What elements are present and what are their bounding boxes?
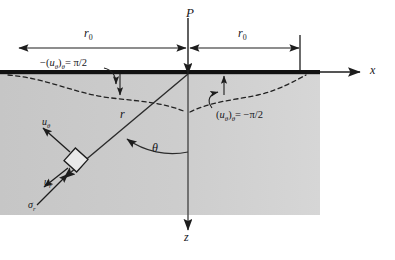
radius-label-r: r [120,108,125,120]
r0-left-label: r0 [84,27,93,42]
theta-angle-label: θ [152,142,158,154]
r0-right-label: r0 [238,27,247,42]
x-axis-label: x [370,64,375,76]
u-r-vector-label: ur [44,177,52,190]
figure-canvas: P r0 r0 x z r θ uθ ur σr −(uθ)θ= π/2 (uθ… [0,0,395,260]
u-r-subscript: r [49,182,52,189]
u-theta-vector-label: uθ [42,117,50,130]
diagram-vector-graphics [0,0,395,260]
sigma-r-subscript: r [33,205,36,212]
boundary-condition-right-label: (uθ)θ= −π/2 [216,110,263,123]
boundary-condition-left-label: −(uθ)θ= π/2 [40,58,87,71]
r0-left-subscript: 0 [89,33,93,42]
z-axis-label: z [184,231,189,243]
r0-right-subscript: 0 [243,33,247,42]
load-label-P: P [186,6,194,19]
u-theta-subscript: θ [47,122,50,129]
sigma-r-vector-label: σr [28,200,36,213]
